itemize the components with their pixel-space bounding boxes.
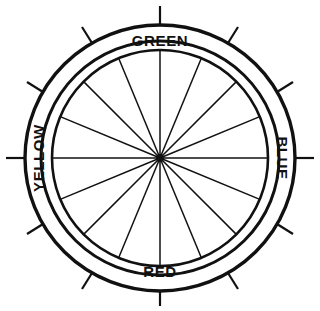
wheel-svg: GREEN RED BLUE YELLOW (0, 0, 320, 311)
hub (156, 154, 164, 162)
wheel-diagram: GREEN RED BLUE YELLOW (0, 0, 320, 311)
ring-label-green: GREEN (132, 32, 188, 49)
ring-label-blue: BLUE (274, 136, 291, 179)
ring-label-red: RED (143, 263, 176, 280)
ring-label-yellow: YELLOW (30, 124, 47, 192)
